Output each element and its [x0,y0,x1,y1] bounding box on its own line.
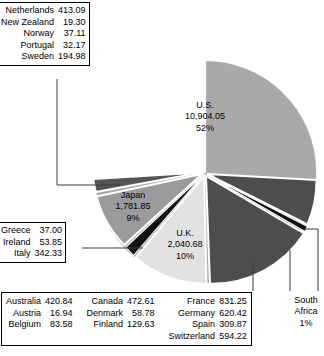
country-value: 37.11 [58,28,86,40]
table-row: Belgium 83.58 [6,319,73,331]
table-row: Switzerland 594.22 [169,331,247,343]
callout-top-left-table: Netherlands 413.09 New Zealand 19.30 Nor… [1,5,86,63]
table-row: Finland 129.63 [87,319,155,331]
country-value: 58.78 [127,308,155,320]
callout-top-left[interactable]: Netherlands 413.09 New Zealand 19.30 Nor… [0,2,90,66]
country-name: Germany [169,308,220,320]
callout-bottom-columns: Australia 420.84 Austria 16.94 Belgium 8… [6,296,247,342]
country-value: 472.61 [127,296,155,308]
table-row: France 831.25 [169,296,247,308]
country-name: Finland [87,319,128,331]
country-value: 831.25 [219,296,247,308]
country-name: Spain [169,319,220,331]
table-row: Italy 342.33 [1,248,62,260]
table-row: Australia 420.84 [6,296,73,308]
callout-bottom-col3: France 831.25 Germany 620.42 Spain 309.8… [169,296,247,342]
country-value: 594.22 [219,331,247,343]
country-name: Austria [6,308,45,320]
country-value: 19.30 [58,17,86,29]
country-value: 129.63 [127,319,155,331]
country-name: New Zealand [1,17,58,29]
slice-label-us-value: 10,904.05 [166,111,244,122]
country-value: 420.84 [45,296,73,308]
table-row: Netherlands 413.09 [1,5,86,17]
table-row: Denmark 58.78 [87,308,155,320]
callout-mid-left-table: Greece 37.00 Ireland 53.85 Italy 342.33 [1,225,62,260]
country-value: 37.00 [35,225,63,237]
callout-bottom[interactable]: Australia 420.84 Austria 16.94 Belgium 8… [1,292,252,346]
country-name: Norway [1,28,58,40]
table-row: Germany 620.42 [169,308,247,320]
table-row: Ireland 53.85 [1,237,62,249]
country-name: Greece [1,225,35,237]
country-name: Australia [6,296,45,308]
slice-label-uk-percent: 10% [152,251,218,262]
country-name: France [169,296,220,308]
slice-label-uk-value: 2,040.68 [152,239,218,250]
country-name: Netherlands [1,5,58,17]
callout-bottom-col1: Australia 420.84 Austria 16.94 Belgium 8… [6,296,73,331]
south-africa-percent: 1% [288,318,324,329]
table-row: New Zealand 19.30 [1,17,86,29]
country-value: 620.42 [219,308,247,320]
south-africa-line2: Africa [288,306,324,317]
table-row: Canada 472.61 [87,296,155,308]
country-value: 32.17 [58,40,86,52]
slice-label-uk-name: U.K. [152,228,218,239]
callout-mid-left[interactable]: Greece 37.00 Ireland 53.85 Italy 342.33 [0,222,66,263]
callout-bottom-col2: Canada 472.61 Denmark 58.78 Finland 129.… [87,296,155,331]
table-row: Portugal 32.17 [1,40,86,52]
country-value: 53.85 [35,237,63,249]
slice-label-japan: Japan 1,781.85 9% [100,190,166,224]
country-name: Sweden [1,51,58,63]
callout-south-africa[interactable]: South Africa 1% [288,295,324,329]
table-row: Greece 37.00 [1,225,62,237]
leader-line-top-left [57,79,120,185]
country-value: 309.87 [219,319,247,331]
table-row: Austria 16.94 [6,308,73,320]
country-name: Switzerland [169,331,220,343]
table-row: Spain 309.87 [169,319,247,331]
slice-label-japan-value: 1,781.85 [100,201,166,212]
country-value: 16.94 [45,308,73,320]
table-row: Sweden 194.98 [1,51,86,63]
slice-label-uk: U.K. 2,040.68 10% [152,228,218,262]
country-name: Portugal [1,40,58,52]
country-name: Ireland [1,237,35,249]
table-row: Norway 37.11 [1,28,86,40]
slice-label-japan-name: Japan [100,190,166,201]
chart-canvas: U.S. 10,904.05 52% Japan 1,781.85 9% U.K… [0,0,324,356]
country-name: Italy [1,248,35,260]
slice-label-us-name: U.S. [166,100,244,111]
country-value: 194.98 [58,51,86,63]
slice-label-japan-percent: 9% [100,213,166,224]
country-name: Denmark [87,308,128,320]
country-value: 83.58 [45,319,73,331]
country-name: Belgium [6,319,45,331]
country-value: 413.09 [58,5,86,17]
leader-line-south-africa [305,229,318,291]
slice-label-us: U.S. 10,904.05 52% [166,100,244,134]
country-value: 342.33 [35,248,63,260]
south-africa-line1: South [288,295,324,306]
slice-label-us-percent: 52% [166,123,244,134]
country-name: Canada [87,296,128,308]
